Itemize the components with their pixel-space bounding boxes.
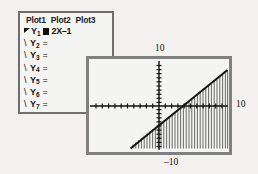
equals-sign-y6: =: [42, 87, 47, 97]
graph-label-xmax: 10: [236, 99, 246, 109]
graph-screen: [86, 56, 232, 155]
function-label-y6: Y6: [30, 87, 39, 97]
tab-plot3[interactable]: Plot3: [76, 15, 96, 25]
function-row-y1[interactable]: Y1 2X–1: [20, 25, 112, 37]
tab-plot2[interactable]: Plot2: [51, 15, 71, 25]
function-curve-y1: [131, 70, 228, 149]
function-label-y1: Y1: [31, 26, 40, 36]
function-label-y7: Y7: [30, 99, 39, 109]
filled-square-equals-icon[interactable]: [43, 28, 49, 35]
function-label-y3: Y3: [30, 50, 39, 60]
function-label-y5: Y5: [30, 75, 39, 85]
equals-sign-y4: =: [42, 63, 47, 73]
graph-plot-area: [89, 59, 229, 152]
function-row-y2[interactable]: \ Y2 =: [20, 37, 112, 49]
equals-sign-y5: =: [42, 75, 47, 85]
right-arrow-cursor-icon: [24, 28, 30, 33]
equals-sign-y3: =: [42, 50, 47, 60]
equals-sign-y7: =: [42, 99, 47, 109]
function-expression-y1[interactable]: 2X–1: [51, 26, 71, 36]
graph-label-ymax: 10: [155, 43, 165, 53]
tab-plot1[interactable]: Plot1: [26, 15, 46, 25]
graph-label-ymin: –10: [164, 157, 178, 167]
equals-sign-y2: =: [42, 38, 47, 48]
plot-tabs-row: Plot1 Plot2 Plot3: [20, 14, 112, 25]
function-label-y2: Y2: [30, 38, 39, 48]
graph-svg: [89, 59, 229, 152]
function-label-y4: Y4: [30, 63, 39, 73]
screenshot-stage: Plot1 Plot2 Plot3 Y1 2X–1 \ Y2 =: [0, 0, 258, 174]
